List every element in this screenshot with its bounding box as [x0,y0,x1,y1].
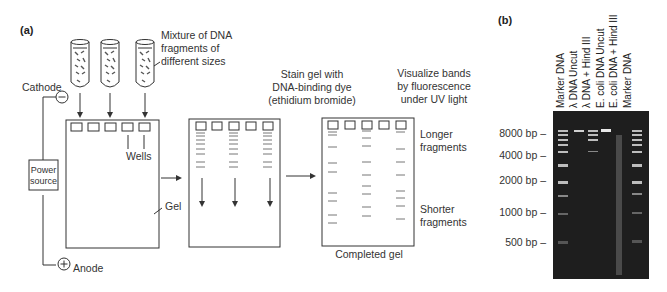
shorter-label-line2: fragments [420,216,467,228]
cathode-wire [43,97,56,160]
power-source-line1: Power [31,165,57,175]
test-tube-1 [71,40,89,88]
visualize-label-line2: by fluorescence [397,80,471,92]
lane-label-1: Marker DNA [555,53,566,108]
size-marker-500: 500 bp – [505,236,546,248]
visualize-label-line1: Visualize bands [397,67,470,79]
power-source-line2: source [30,176,57,186]
size-marker-4000: 4000 bp – [499,149,546,161]
gel-electrophoresis-figure: (a) Mixture of DNA fragments of [0,0,667,292]
gel-loading [66,120,159,248]
gel-label: Gel [165,200,181,212]
anode-label: Anode [73,262,104,274]
size-marker-1000: 1000 bp – [499,206,546,218]
lane-labels: Marker DNA λ DNA Uncut λ DNA + Hind III … [555,14,633,108]
stain-label-line2: DNA-binding dye [272,81,352,93]
lane-label-2: λ DNA Uncut [568,51,579,108]
cathode-label: Cathode [22,81,62,93]
panel-a-label: (a) [20,24,34,36]
size-marker-2000: 2000 bp – [499,174,546,186]
longer-label-line1: Longer [420,128,453,140]
lane-label-5: E. coli DNA + Hind III [608,14,619,108]
panel-b-label: (b) [498,14,512,26]
shorter-label-line1: Shorter [420,203,455,215]
longer-label-line2: fragments [420,141,467,153]
gel-completed [322,118,414,246]
visualize-label-line3: under UV light [401,93,468,105]
anode-wire [43,195,56,265]
test-tube-3 [136,40,154,88]
mixture-pointer [154,62,160,66]
tube-arrows [77,93,148,118]
lane-label-3: λ DNA + Hind III [581,37,592,108]
stain-label-line1: Stain gel with [281,68,344,80]
mixture-label-line1: Mixture of DNA [161,29,232,41]
mixture-label-line3: different sizes [161,55,226,67]
size-marker-8000: 8000 bp – [499,127,546,139]
test-tube-2 [101,40,119,88]
lane-label-6: Marker DNA [622,53,633,108]
mixture-label-line2: fragments of [161,42,219,54]
lane-label-4: E. coli DNA Uncut [595,28,606,108]
stain-label-line3: (ethidium bromide) [268,94,356,106]
completed-gel-label: Completed gel [335,248,403,260]
wells-label: Wells [126,150,151,162]
